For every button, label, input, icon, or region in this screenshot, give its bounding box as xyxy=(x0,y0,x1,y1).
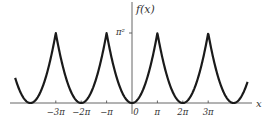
x-tick-label: 3π xyxy=(203,107,214,117)
x-axis-label: x xyxy=(256,98,262,109)
periodic-function-plot: −3π−2π−π0π2π3π f(x) x π² xyxy=(0,0,274,127)
x-tick-label: −3π xyxy=(47,107,66,117)
y-tick-label: π² xyxy=(115,27,126,37)
x-tick-label: π xyxy=(154,107,161,117)
x-tick-labels: −3π−2π−π0π2π3π xyxy=(47,107,214,117)
x-tick-label: 0 xyxy=(133,107,139,117)
function-curve xyxy=(15,33,247,103)
x-tick-label: 2π xyxy=(176,107,188,117)
y-axis-label: f(x) xyxy=(135,3,155,16)
x-tick-label: −2π xyxy=(72,107,91,117)
x-tick-label: −π xyxy=(100,107,113,117)
